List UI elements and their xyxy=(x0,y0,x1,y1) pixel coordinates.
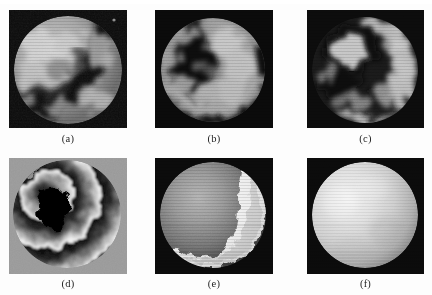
panel-e-caption: (e) xyxy=(155,278,273,289)
figure-panel-grid: (a) (b) (c) (d) (e) (f) xyxy=(0,0,432,295)
panel-b-image xyxy=(155,10,273,128)
panel-d-image xyxy=(9,158,127,274)
panel-a-image xyxy=(9,10,127,128)
panel-d-canvas xyxy=(9,158,127,274)
panel-f-image xyxy=(307,158,424,274)
panel-b-canvas xyxy=(155,10,273,128)
panel-f-canvas xyxy=(307,158,424,274)
panel-f-caption: (f) xyxy=(307,278,424,289)
panel-c-canvas xyxy=(307,10,424,128)
panel-a-caption: (a) xyxy=(9,133,127,144)
panel-c-image xyxy=(307,10,424,128)
figure-top-margin xyxy=(0,0,432,4)
panel-d-caption: (d) xyxy=(9,278,127,289)
panel-b-caption: (b) xyxy=(155,133,273,144)
panel-e-canvas xyxy=(155,158,273,274)
panel-a-canvas xyxy=(9,10,127,128)
panel-e-image xyxy=(155,158,273,274)
panel-c-caption: (c) xyxy=(307,133,424,144)
